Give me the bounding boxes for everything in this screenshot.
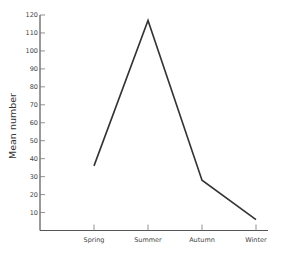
data-line [94,20,256,219]
y-tick-label: 120 [26,11,38,19]
x-tick-label-winter: Winter [245,236,267,244]
x-tick-label-summer: Summer [134,236,162,244]
y-tick-label: 10 [30,209,38,217]
y-tick-label: 80 [30,83,38,91]
x-tick-label-spring: Spring [84,236,105,244]
y-tick-label: 20 [30,191,38,199]
y-tick-label: 60 [30,119,38,127]
y-tick-label: 30 [30,173,38,181]
y-tick-label: 70 [30,101,38,109]
x-tick-label-autumn: Autumn [189,236,215,244]
y-tick-label: 50 [30,137,38,145]
x-axis: SpringSummerAutumnWinter [40,225,268,244]
y-tick-label: 90 [30,65,38,73]
y-axis-label: Mean number [7,93,18,159]
y-axis: 102030405060708090100110120 [26,11,45,230]
y-tick-label: 100 [26,47,38,55]
y-tick-label: 40 [30,155,38,163]
line-chart: 102030405060708090100110120 SpringSummer… [0,0,287,254]
y-tick-label: 110 [26,29,38,37]
